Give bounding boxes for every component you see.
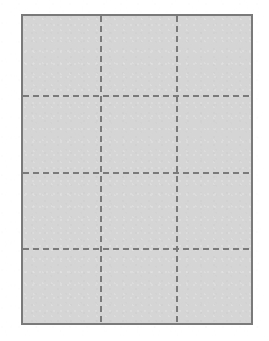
grid-overlay [23, 16, 251, 323]
page-canvas [0, 0, 269, 341]
grid-panel[interactable] [21, 14, 253, 325]
